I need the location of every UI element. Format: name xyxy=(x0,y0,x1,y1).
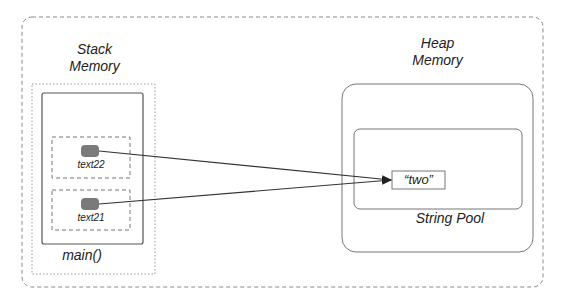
heap-title-line2: Memory xyxy=(395,52,480,69)
stack-title: Stack Memory xyxy=(52,41,137,75)
text22-var-box xyxy=(52,137,130,178)
string-pool-label: String Pool xyxy=(390,210,510,227)
heap-title: Heap Memory xyxy=(395,35,480,69)
stack-title-line2: Memory xyxy=(52,58,137,75)
main-frame-label: main() xyxy=(52,247,112,264)
text22-pointer-icon xyxy=(81,145,99,157)
text22-label: text22 xyxy=(52,159,130,171)
text21-label: text21 xyxy=(52,212,130,224)
stack-title-line1: Stack xyxy=(52,41,137,58)
string-value-text: “two” xyxy=(392,172,445,188)
heap-title-line1: Heap xyxy=(395,35,480,52)
text21-pointer-icon xyxy=(81,198,99,210)
stack-region xyxy=(32,84,155,274)
string-pool-box xyxy=(354,129,522,209)
